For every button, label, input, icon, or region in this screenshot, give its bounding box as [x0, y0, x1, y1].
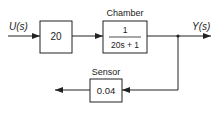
- chamber-title: Chamber: [106, 8, 143, 18]
- chamber-block: 1 20s + 1: [103, 21, 147, 53]
- sensor-value: 0.04: [97, 85, 116, 96]
- chamber-denominator: 20s + 1: [111, 40, 139, 50]
- sensor-title: Sensor: [92, 67, 121, 77]
- input-label: U(s): [9, 21, 28, 32]
- output-label: Y(s): [192, 21, 210, 32]
- chamber-numerator: 1: [123, 25, 128, 35]
- sensor-block: 0.04: [90, 79, 122, 102]
- block-diagram: U(s) 20 Chamber 1 20s + 1 Y(s) Sensor 0.…: [0, 0, 223, 116]
- gain-block: 20: [40, 21, 72, 53]
- gain-value: 20: [50, 31, 62, 42]
